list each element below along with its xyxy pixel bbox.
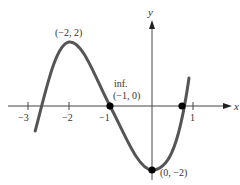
inflection-point-label: (−1, 0)	[113, 90, 140, 102]
function-graph: x −3 −2 −1 1 y (−2, 2) inf. (−1, 0) (0, …	[0, 0, 240, 185]
y-axis: y	[147, 6, 155, 180]
x-axis-label: x	[233, 100, 239, 112]
min-point-marker	[148, 166, 155, 173]
y-axis-label: y	[147, 6, 153, 18]
x-axis-arrow-icon	[223, 103, 232, 109]
tick-label-minus-3: −3	[18, 112, 29, 123]
tick-label-minus-2: −2	[62, 112, 73, 123]
min-point-label: (0, −2)	[160, 167, 187, 179]
y-axis-arrow-icon	[149, 20, 155, 29]
inflection-point-marker	[106, 102, 113, 109]
max-point-label: (−2, 2)	[55, 27, 82, 39]
root-point-marker	[178, 102, 185, 109]
inflection-note-label: inf.	[114, 78, 128, 89]
tick-label-1: 1	[190, 112, 195, 123]
tick-label-minus-1: −1	[99, 112, 110, 123]
